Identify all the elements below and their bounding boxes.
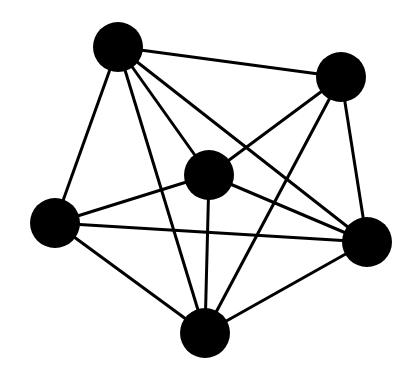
edge-top-right-right <box>341 77 367 242</box>
node-left <box>30 198 80 248</box>
node-top-left <box>93 22 143 72</box>
node-bottom <box>180 308 230 358</box>
node-layer <box>30 22 392 358</box>
edge-left-right <box>55 223 367 242</box>
edge-center-right <box>209 175 367 242</box>
node-right <box>342 217 392 267</box>
edge-left-bottom <box>55 223 205 333</box>
node-top-right <box>316 52 366 102</box>
node-center <box>184 150 234 200</box>
network-graph <box>0 0 418 379</box>
edge-top-left-left <box>55 47 118 223</box>
